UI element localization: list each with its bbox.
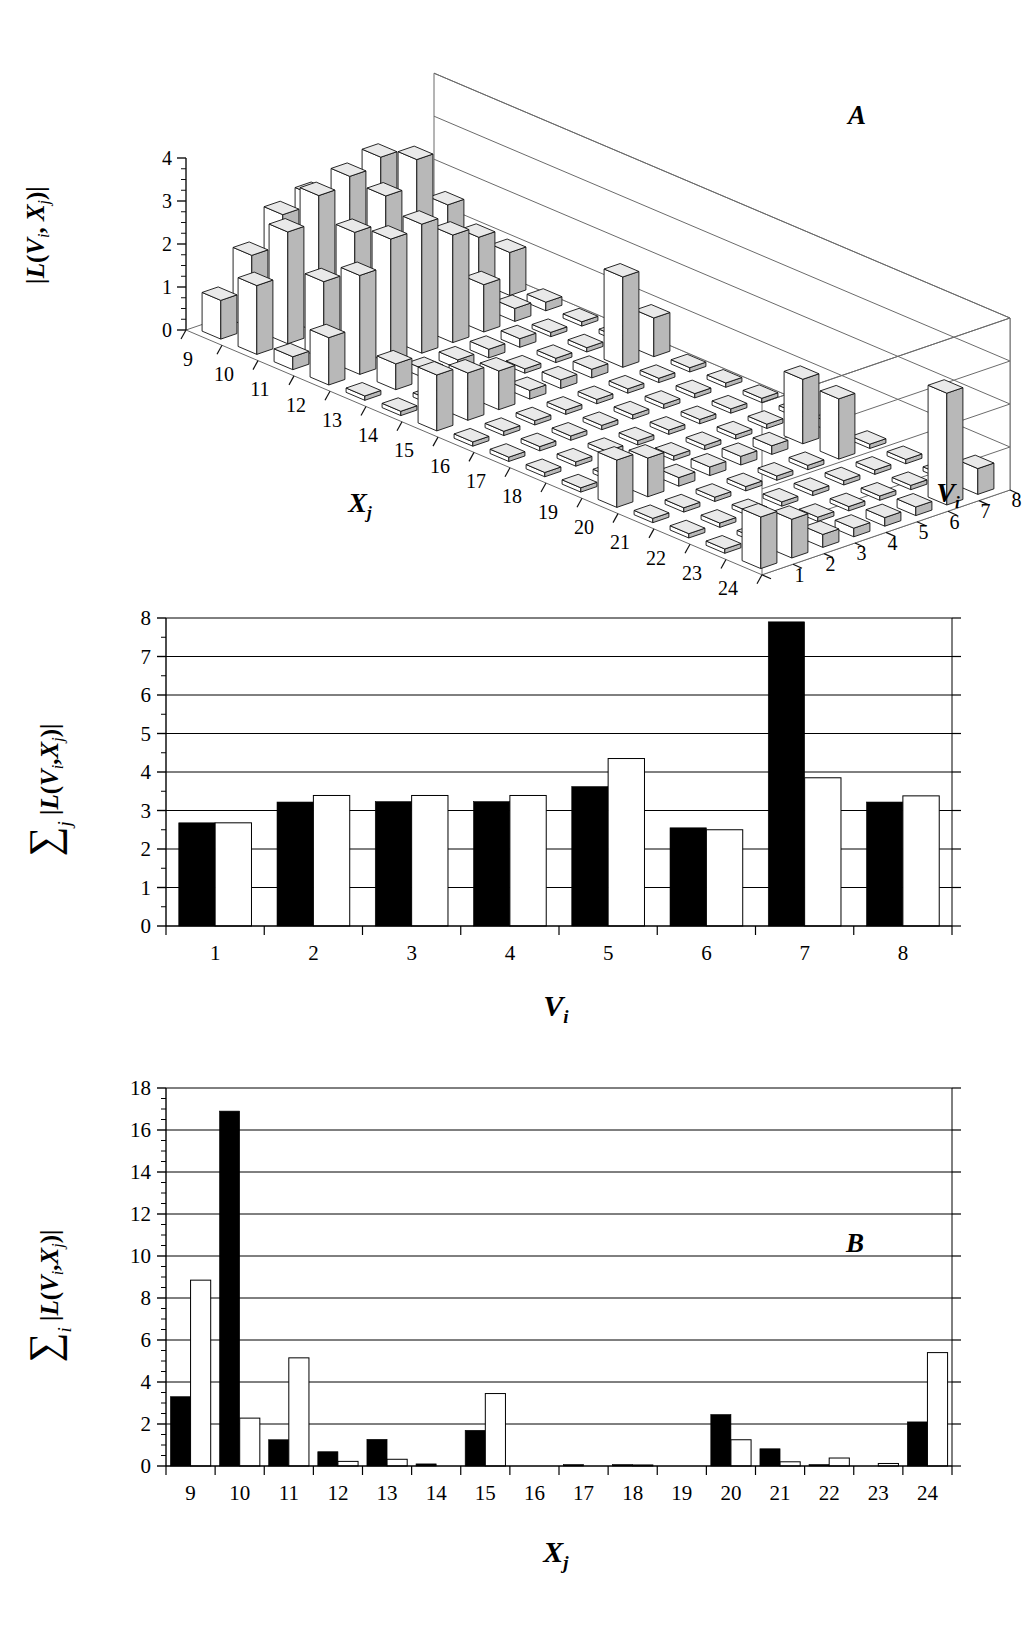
panel-a-bar-face-side (437, 369, 453, 430)
panel-a-bar (521, 433, 556, 451)
panel-a-x-tick-label: 10 (214, 363, 234, 385)
panel-a-x-tick-label: 20 (574, 516, 594, 538)
panel-b-svg-bar-open (215, 823, 251, 926)
panel-a-x-tick-label: 13 (322, 409, 342, 431)
panel-c-svg-x-tick-label: 16 (524, 1481, 545, 1505)
panel-b-svg-bar-open (510, 795, 546, 926)
panel-c-svg-x-tick-label: 21 (770, 1481, 791, 1505)
panel-c-svg-x-tick-label: 13 (377, 1481, 398, 1505)
panel-c-svg-y-tick-label: 6 (141, 1328, 152, 1352)
panel-a-bar-face-side (623, 271, 639, 367)
panel-a-bar (346, 383, 381, 401)
panel-c-xaxis-title-text: Xj (542, 1535, 569, 1573)
panel-a-bar (681, 406, 716, 424)
panel-a-y-tick-label: 7 (981, 500, 991, 522)
panel-a-z-tick-label: 4 (162, 147, 172, 169)
panel-a-bar (377, 350, 412, 389)
panel-a-plot-area: 0123491011121314151617181920212223241234… (0, 0, 1030, 600)
panel-c-svg-bar-filled (269, 1440, 289, 1466)
panel-a-bar (562, 474, 597, 492)
panel-a-x-tick-label: 14 (358, 424, 378, 446)
panel-a-bar (676, 380, 711, 398)
panel-a-3d-chart: 0123491011121314151617181920212223241234… (0, 0, 1030, 600)
panel-c-svg-y-tick-label: 18 (130, 1076, 151, 1100)
panel-a-bar (238, 272, 273, 354)
panel-a-x-tick (757, 575, 762, 584)
panel-a-x-tick-label: 23 (682, 562, 702, 584)
panel-a-bar (670, 520, 705, 538)
panel-a-bar (501, 325, 536, 347)
panel-c-svg-y-tick-label: 10 (130, 1244, 151, 1268)
panel-a-bar-face-front (418, 367, 437, 431)
panel-a-bar (557, 448, 592, 466)
panel-a-x-tick (721, 560, 726, 569)
panel-a-bar-face-side (288, 226, 304, 343)
panel-a-bar-face-front (598, 452, 617, 507)
panel-c-svg-y-tick-label: 14 (130, 1160, 152, 1184)
panel-a-bar (634, 505, 669, 523)
panel-a-bar (629, 445, 664, 497)
panel-b-svg-x-tick-label: 8 (898, 941, 909, 965)
panel-a-y-tick-label: 6 (950, 511, 960, 533)
panel-a-bar (706, 536, 741, 554)
panel-a-x-tick (289, 376, 294, 385)
panel-c-bar-chart: 0246810121416189101112131415161718192021… (0, 1070, 1030, 1629)
panel-c-yaxis-title: ∑i |L(Vi,Xj)| (21, 1230, 75, 1363)
panel-a-bar (784, 366, 819, 444)
panel-a-bar-face-front (784, 371, 803, 443)
panel-c-svg-y-tick-label: 0 (141, 1454, 152, 1478)
panel-c-svg-bar-filled (170, 1397, 190, 1466)
panel-a-bar-face-side (648, 453, 664, 497)
panel-a-bar (269, 219, 304, 344)
panel-a-bar (583, 412, 618, 430)
panel-a-x-tick (649, 529, 654, 538)
panel-a-y-tick-label: 1 (795, 564, 805, 586)
panel-a-bar (722, 443, 757, 465)
panel-a-bar-face-front (604, 269, 623, 367)
panel-c-svg-bar-open (191, 1280, 211, 1466)
panel-a-y-tick-label: 5 (919, 521, 929, 543)
panel-a-letter: A (848, 100, 866, 131)
panel-a-x-tick-label: 11 (250, 378, 269, 400)
panel-c-svg-y-tick-label: 16 (130, 1118, 151, 1142)
panel-a-bar (542, 366, 577, 388)
panel-b-svg: 01234567812345678Vi∑j |L(Vi,Xj)| (0, 600, 1030, 1070)
panel-a-bar-face-side (792, 514, 808, 558)
panel-a-bar (619, 427, 654, 445)
panel-c-svg-bar-open (927, 1353, 947, 1466)
panel-b-svg-x-tick-label: 1 (210, 941, 221, 965)
panel-a-bar (526, 459, 561, 477)
panel-c-svg-x-tick-label: 22 (819, 1481, 840, 1505)
panel-a-bar (665, 494, 700, 512)
panel-a-bar (645, 391, 680, 409)
panel-a-bar (727, 473, 762, 491)
panel-a-y-tick-label: 3 (857, 542, 867, 564)
panel-a-bar (573, 356, 608, 378)
panel-b-svg-y-tick-label: 3 (141, 799, 152, 823)
panel-a-bar (202, 287, 237, 339)
panel-a-bar-face-front (238, 278, 257, 355)
panel-a-bar-face-side (654, 312, 670, 356)
panel-a-x-tick-label: 18 (502, 485, 522, 507)
panel-a-xaxis-title: Xj (347, 487, 372, 522)
panel-a-bar (382, 398, 417, 416)
panel-a-bar-face-side (839, 393, 855, 459)
panel-b-svg-bar-open (903, 796, 939, 926)
panel-a-x-tick (217, 345, 222, 354)
panel-b-svg-x-tick-label: 5 (603, 941, 614, 965)
panel-a-y-tick-label: 2 (826, 553, 836, 575)
panel-a-x-tick (253, 361, 258, 370)
panel-c-svg-x-tick-label: 17 (573, 1481, 594, 1505)
panel-b-svg-bar-open (706, 830, 742, 926)
panel-a-bar (640, 365, 675, 383)
panel-c-svg-axes: 0246810121416189101112131415161718192021… (21, 1076, 961, 1573)
panel-a-bar-face-front (742, 509, 761, 569)
panel-a-zaxis-title: |L(Vi, Xj)| (22, 186, 53, 284)
panel-c-svg-bar-filled (367, 1439, 387, 1466)
panel-a-bar (609, 375, 644, 393)
panel-a-bar (537, 345, 572, 363)
panel-a-bar-face-front (820, 391, 839, 459)
panel-c-svg-x-tick-label: 19 (671, 1481, 692, 1505)
panel-a-bar (372, 226, 407, 364)
panel-a-x-tick-label: 9 (183, 348, 193, 370)
